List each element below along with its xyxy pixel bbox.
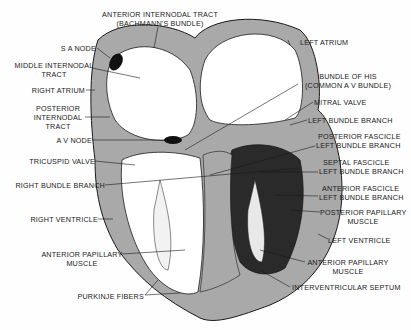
label-right-ventricle: RIGHT VENTRICLE <box>10 215 98 224</box>
label-posterior-papillary-muscle: POSTERIOR PAPILLARY MUSCLE <box>320 208 406 226</box>
label-line: ANTERIOR PAPILLARY <box>40 250 124 259</box>
label-mitral-valve: MITRAL VALVE <box>314 98 367 107</box>
label-line: INTERNODAL <box>32 113 84 122</box>
label-line: LEFT BUNDLE BRANCH <box>319 193 404 202</box>
label-anterior-papillary-muscle-right-ventricle: ANTERIOR PAPILLARY MUSCLE <box>40 250 124 268</box>
label-line: POSTERIOR PAPILLARY <box>320 208 406 217</box>
label-line: MUSCLE <box>306 267 390 276</box>
av-node <box>164 136 182 144</box>
label-line: ANTERIOR PAPILLARY <box>306 258 390 267</box>
label-right-atrium: RIGHT ATRIUM <box>10 86 85 95</box>
label-line: BUNDLE OF HIS <box>298 72 398 81</box>
label-line: TRACT <box>14 70 94 79</box>
label-posterior-internodal-tract: POSTERIOR INTERNODAL TRACT <box>32 104 84 131</box>
label-av-node: A V NODE <box>40 136 92 145</box>
label-line: MIDDLE INTERNODAL <box>14 61 94 70</box>
label-line: MUSCLE <box>320 217 406 226</box>
left-ventricle-cavity <box>227 145 303 274</box>
label-line: SEPTAL FASCICLE <box>319 158 404 167</box>
label-line: ANTERIOR INTERNODAL TRACT <box>102 10 218 19</box>
label-bundle-of-his: BUNDLE OF HIS (COMMON A V BUNDLE) <box>298 72 398 90</box>
label-left-bundle-branch: LEFT BUNDLE BRANCH <box>308 116 393 125</box>
label-line: ANTERIOR FASCICLE <box>319 184 404 193</box>
label-line: POSTERIOR FASCICLE <box>316 132 401 141</box>
label-line: (COMMON A V BUNDLE) <box>298 81 398 90</box>
label-posterior-fascicle: POSTERIOR FASCICLE LEFT BUNDLE BRANCH <box>316 132 401 150</box>
label-interventricular-septum: INTERVENTRICULAR SEPTUM <box>292 283 401 292</box>
label-line: LEFT BUNDLE BRANCH <box>316 141 401 150</box>
label-line: (BACHMANN'S BUNDLE) <box>102 19 218 28</box>
label-septal-fascicle: SEPTAL FASCICLE LEFT BUNDLE BRANCH <box>319 158 404 176</box>
label-right-bundle-branch: RIGHT BUNDLE BRANCH <box>5 181 105 190</box>
heart-conduction-diagram: ANTERIOR INTERNODAL TRACT (BACHMANN'S BU… <box>0 0 411 330</box>
label-sa-node: S A NODE <box>50 44 96 53</box>
label-anterior-papillary-muscle-left-ventricle: ANTERIOR PAPILLARY MUSCLE <box>306 258 390 276</box>
label-tricuspid-valve: TRICUSPID VALVE <box>10 157 95 166</box>
label-left-atrium: LEFT ATRIUM <box>300 38 348 47</box>
label-line: MUSCLE <box>40 259 124 268</box>
label-purkinje-fibers: PURKINJE FIBERS <box>60 292 144 301</box>
label-middle-internodal-tract: MIDDLE INTERNODAL TRACT <box>14 61 94 79</box>
label-line: TRACT <box>32 122 84 131</box>
label-line: LEFT BUNDLE BRANCH <box>319 167 404 176</box>
label-line: POSTERIOR <box>32 104 84 113</box>
label-left-ventricle: LEFT VENTRICLE <box>328 236 391 245</box>
label-anterior-internodal-tract: ANTERIOR INTERNODAL TRACT (BACHMANN'S BU… <box>102 10 218 28</box>
label-anterior-fascicle: ANTERIOR FASCICLE LEFT BUNDLE BRANCH <box>319 184 404 202</box>
